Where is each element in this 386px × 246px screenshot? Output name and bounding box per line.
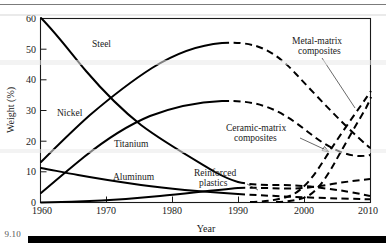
x-tick-1970: 1970	[96, 205, 116, 216]
figure-container: 0 10 20 30 40 50 60 1960 1970 1980 1990 …	[0, 0, 386, 246]
materials-weight-line-chart: 0 10 20 30 40 50 60 1960 1970 1980 1990 …	[0, 0, 386, 246]
x-tick-2010: 2010	[358, 205, 378, 216]
series-label-titanium: Titanium	[114, 139, 149, 149]
leader-metal-matrix-composites	[322, 58, 355, 108]
x-tick-1990: 1990	[228, 205, 248, 216]
x-axis-title: Year	[197, 223, 216, 234]
annotation-metal-matrix-line2: composites	[298, 46, 341, 56]
annotation-reinforced-plastics: Reinforced plastics	[194, 168, 258, 190]
annotation-ceramic-matrix-composites: Ceramic-matrix composites	[226, 123, 329, 152]
x-tick-1980: 1980	[162, 205, 182, 216]
y-axis-title: Weight (%)	[5, 87, 17, 133]
y-tick-50: 50	[26, 44, 36, 55]
annotation-ceramic-matrix-line1: Ceramic-matrix	[226, 123, 286, 133]
series-steel-solid	[41, 18, 238, 182]
leader-arrowhead-ceramic	[322, 147, 329, 153]
series-reinforced-plastics-solid	[41, 188, 238, 203]
x-axis-tick-labels: 1960 1970 1980 1990 2000 2010	[32, 205, 378, 216]
series-reinforced-plastics-dashed	[238, 179, 370, 189]
x-tick-1960: 1960	[32, 205, 52, 216]
series-label-aluminum: Aluminum	[113, 172, 155, 182]
y-tick-40: 40	[26, 74, 36, 85]
series-label-steel: Steel	[92, 39, 111, 49]
leader-ceramic-matrix-composites	[300, 138, 328, 151]
y-tick-30: 30	[26, 105, 36, 116]
series-steel-dashed	[238, 182, 370, 196]
series-label-nickel: Nickel	[57, 108, 83, 118]
annotation-metal-matrix-line1: Metal-matrix	[292, 36, 342, 46]
page-bottom-bar	[28, 236, 386, 243]
y-axis-ticks	[41, 19, 47, 203]
annotation-reinforced-plastics-line1: Reinforced	[194, 168, 236, 178]
annotation-metal-matrix-composites: Metal-matrix composites	[292, 36, 355, 108]
y-tick-60: 60	[26, 13, 36, 24]
y-tick-10: 10	[26, 166, 36, 177]
figure-caption: 9.10	[0, 229, 21, 239]
y-axis-tick-labels: 0 10 20 30 40 50 60	[26, 13, 36, 208]
x-tick-2000: 2000	[294, 205, 314, 216]
annotation-reinforced-plastics-line2: plastics	[199, 178, 228, 188]
y-tick-20: 20	[26, 136, 36, 147]
annotation-ceramic-matrix-line2: composites	[234, 133, 277, 143]
